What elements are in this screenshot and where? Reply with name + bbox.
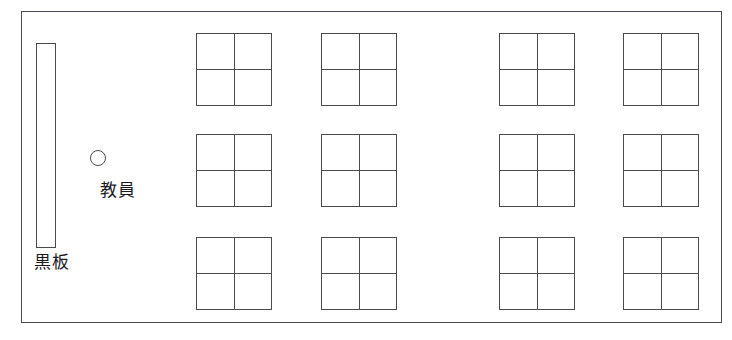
teacher-position-icon (90, 150, 106, 166)
desk-cell (360, 274, 398, 310)
desk-cell (624, 70, 662, 106)
desk-cell (235, 238, 273, 274)
desk-cell (662, 238, 700, 274)
desk-cell (360, 238, 398, 274)
desk-cluster-r3c1 (196, 237, 272, 310)
desk-cell (538, 274, 576, 310)
desk-cell (235, 70, 273, 106)
desk-cell (500, 135, 538, 171)
desk-cell (624, 135, 662, 171)
desk-cluster-r2c4 (623, 134, 699, 207)
desk-cluster-r3c3 (499, 237, 575, 310)
desk-cell (662, 135, 700, 171)
desk-cell (360, 34, 398, 70)
desk-cell (624, 171, 662, 207)
desk-cluster-r3c2 (321, 237, 397, 310)
desk-cell (322, 135, 360, 171)
desk-cluster-r1c2 (321, 33, 397, 106)
desk-cell (500, 274, 538, 310)
desk-cell (538, 171, 576, 207)
desk-cell (538, 70, 576, 106)
blackboard-label: 黒板 (34, 251, 69, 273)
desk-cell (322, 70, 360, 106)
desk-cell (538, 238, 576, 274)
desk-cell (197, 274, 235, 310)
desk-cluster-r2c1 (196, 134, 272, 207)
classroom-seating-diagram: 黒板 教員 (0, 0, 732, 340)
desk-cell (360, 171, 398, 207)
desk-cell (538, 135, 576, 171)
desk-cell (500, 238, 538, 274)
desk-cell (322, 34, 360, 70)
desk-cell (662, 34, 700, 70)
desk-cluster-r2c2 (321, 134, 397, 207)
desk-cell (624, 34, 662, 70)
desk-cluster-r1c3 (499, 33, 575, 106)
desk-cluster-r1c4 (623, 33, 699, 106)
teacher-label: 教員 (100, 179, 135, 201)
desk-cell (322, 171, 360, 207)
desk-cell (624, 238, 662, 274)
blackboard-shape (36, 43, 56, 248)
desk-cell (662, 70, 700, 106)
desk-cell (235, 135, 273, 171)
desk-cell (538, 34, 576, 70)
desk-cell (662, 171, 700, 207)
desk-cell (322, 274, 360, 310)
desk-cell (624, 274, 662, 310)
desk-cell (500, 171, 538, 207)
desk-cluster-r3c4 (623, 237, 699, 310)
desk-cell (500, 34, 538, 70)
desk-cell (360, 135, 398, 171)
desk-cell (235, 171, 273, 207)
desk-cluster-r1c1 (196, 33, 272, 106)
desk-cell (197, 135, 235, 171)
desk-cell (197, 171, 235, 207)
desk-cell (197, 34, 235, 70)
desk-cluster-r2c3 (499, 134, 575, 207)
desk-cell (662, 274, 700, 310)
desk-cell (360, 70, 398, 106)
desk-cell (197, 238, 235, 274)
desk-cell (322, 238, 360, 274)
desk-cell (197, 70, 235, 106)
desk-cell (235, 34, 273, 70)
desk-cell (500, 70, 538, 106)
desk-cell (235, 274, 273, 310)
